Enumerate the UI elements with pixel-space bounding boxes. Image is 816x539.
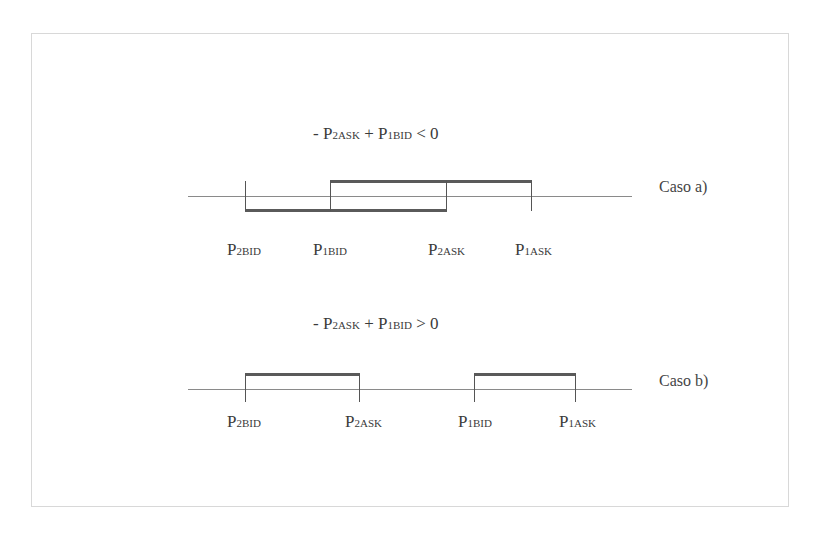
eq-sub-2: 1BID <box>387 129 411 141</box>
case-a-interval-2 <box>245 209 447 212</box>
case-b-label: Caso b) <box>659 371 708 391</box>
case-b-point-label: P1BID <box>458 412 492 433</box>
case-a-point-label: P2ASK <box>428 240 465 261</box>
diagram-frame <box>31 33 789 507</box>
case-a-point-label: P2BID <box>227 240 261 261</box>
case-a-interval-1 <box>330 180 532 183</box>
case-a-tick-p1ask <box>531 181 532 211</box>
case-b-interval-2 <box>245 373 360 376</box>
eq-sub-1: 2ASK <box>332 319 360 331</box>
eq-relation: > 0 <box>412 314 439 333</box>
case-b-interval-1 <box>474 373 576 376</box>
case-a-label: Caso a) <box>659 177 707 197</box>
case-b-tick-p2ask <box>359 374 360 402</box>
eq-prefix: - P <box>313 314 332 333</box>
case-a-tick-p1bid <box>330 181 331 211</box>
case-a-tick-p2bid <box>245 181 246 211</box>
case-a-point-label: P1ASK <box>515 240 552 261</box>
eq-op: + P <box>360 124 388 143</box>
case-b-point-label: P1ASK <box>559 412 596 433</box>
eq-prefix: - P <box>313 124 332 143</box>
case-b-equation: - P2ASK + P1BID > 0 <box>313 314 438 335</box>
case-b-point-label: P2BID <box>227 412 261 433</box>
case-a-axis <box>188 196 632 197</box>
eq-sub-1: 2ASK <box>332 129 360 141</box>
case-b-tick-p1bid <box>474 374 475 402</box>
case-b-axis <box>188 389 632 390</box>
case-b-point-label: P2ASK <box>345 412 382 433</box>
case-b-tick-p2bid <box>245 374 246 402</box>
case-b-tick-p1ask <box>575 374 576 402</box>
case-a-equation: - P2ASK + P1BID < 0 <box>313 124 438 145</box>
case-a-point-label: P1BID <box>313 240 347 261</box>
eq-sub-2: 1BID <box>387 319 411 331</box>
eq-relation: < 0 <box>412 124 439 143</box>
eq-op: + P <box>360 314 388 333</box>
case-a-tick-p2ask <box>446 181 447 211</box>
